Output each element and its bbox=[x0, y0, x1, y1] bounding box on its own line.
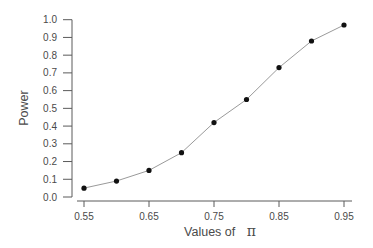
y-tick-label: 0.2 bbox=[43, 156, 57, 167]
y-tick-label: 0.0 bbox=[43, 192, 57, 203]
data-point bbox=[341, 22, 346, 27]
data-point bbox=[179, 150, 184, 155]
y-tick-label: 0.4 bbox=[43, 121, 57, 132]
series-line bbox=[84, 25, 344, 188]
data-series bbox=[81, 22, 346, 190]
data-point bbox=[276, 65, 281, 70]
x-tick-label: 0.55 bbox=[74, 211, 94, 222]
y-tick-label: 0.5 bbox=[43, 103, 57, 114]
data-point bbox=[309, 38, 314, 43]
x-tick-label: 0.65 bbox=[139, 211, 159, 222]
y-tick-label: 1.0 bbox=[43, 14, 57, 25]
x-tick-label: 0.75 bbox=[204, 211, 224, 222]
x-tick-label: 0.85 bbox=[269, 211, 289, 222]
pi-symbol: π bbox=[247, 223, 256, 239]
data-point bbox=[211, 120, 216, 125]
y-tick-label: 0.7 bbox=[43, 67, 57, 78]
y-tick-label: 0.3 bbox=[43, 138, 57, 149]
data-point bbox=[114, 178, 119, 183]
x-axis-title: Values of π bbox=[184, 223, 256, 239]
x-axis-title-text: Values of bbox=[184, 225, 236, 239]
x-tick-label: 0.95 bbox=[334, 211, 354, 222]
power-curve-chart: 0.00.10.20.30.40.50.60.70.80.91.0 0.550.… bbox=[0, 0, 373, 248]
data-point bbox=[146, 168, 151, 173]
x-axis: 0.550.650.750.850.95 bbox=[74, 201, 354, 222]
data-point bbox=[81, 186, 86, 191]
data-point bbox=[244, 97, 249, 102]
y-tick-label: 0.6 bbox=[43, 85, 57, 96]
y-axis: 0.00.10.20.30.40.50.60.70.80.91.0 bbox=[43, 14, 72, 202]
y-axis-title: Power bbox=[17, 90, 31, 125]
y-tick-label: 0.8 bbox=[43, 50, 57, 61]
y-tick-label: 0.9 bbox=[43, 32, 57, 43]
y-tick-label: 0.1 bbox=[43, 174, 57, 185]
